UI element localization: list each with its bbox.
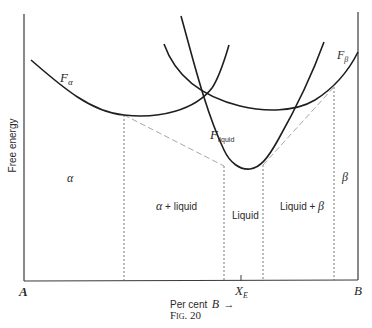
tangent-liquid-beta [263,87,334,165]
label-f-liquid: Fliquid [210,125,234,143]
label-eutectic-sub: E [243,291,248,300]
region-alpha: α [67,171,73,186]
arrow-right-icon: → [224,298,235,310]
label-f-alpha-sub: α [68,77,73,87]
region-alpha-liquid: α + liquid [156,196,197,214]
label-f-beta: Fβ [337,48,348,63]
free-energy-diagram [0,0,372,328]
y-axis-label: Free energy [7,119,18,173]
curve-f-beta [164,44,358,110]
label-f-liquid-main: F [210,127,218,142]
region-liquid-beta-text: Liquid + [280,201,318,212]
label-f-alpha-main: F [60,70,68,85]
label-b: B [354,283,362,299]
region-beta: β [342,170,348,185]
region-alpha-liquid-text: + liquid [162,201,197,212]
x-axis [24,280,358,281]
label-eutectic-main: X [235,283,243,298]
label-f-liquid-sub: liquid [218,136,234,143]
tangent-alpha-liquid [124,115,224,166]
label-eutectic: XE [235,283,248,299]
label-f-beta-sub: β [344,55,348,64]
curve-f-liquid [181,16,324,169]
region-liquid-beta-beta: β [318,199,324,213]
region-liquid-beta: Liquid + β [280,196,324,214]
region-liquid: Liquid [232,210,259,221]
label-a: A [19,284,28,300]
x-axis-label-var: B [212,297,219,311]
label-f-alpha: Fα [60,70,73,86]
figure-caption: Fig. 20 [170,309,201,321]
